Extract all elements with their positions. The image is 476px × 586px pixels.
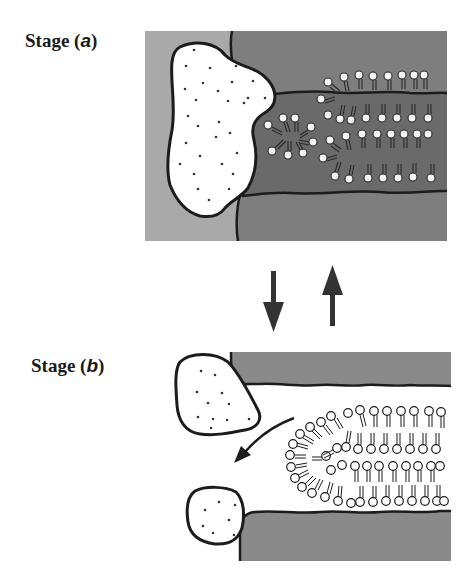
stage-a-diagram xyxy=(145,31,447,241)
stage-b-top-wall xyxy=(231,352,451,386)
arrow-up-icon xyxy=(322,265,343,326)
stage-b-lipids xyxy=(286,406,449,508)
stage-b-bottom-wall xyxy=(240,511,451,561)
arrow-down-icon xyxy=(263,271,284,332)
diagram-canvas xyxy=(0,0,476,586)
stage-b-diagram xyxy=(176,352,451,561)
stage-transition-arrows xyxy=(263,265,343,332)
